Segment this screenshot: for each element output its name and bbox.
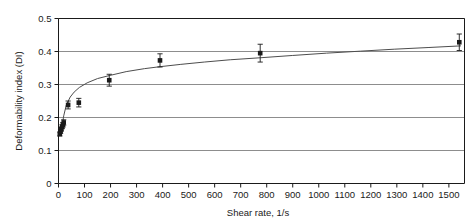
x-tick-label: 100 bbox=[77, 189, 93, 200]
x-axis-label: Shear rate, 1/s bbox=[227, 207, 290, 218]
x-tick-label: 400 bbox=[155, 189, 171, 200]
x-tick-label: 1300 bbox=[386, 189, 407, 200]
y-tick-label: 0.2 bbox=[38, 112, 51, 123]
y-tick-label: 0.4 bbox=[38, 46, 51, 57]
x-tick-label: 0 bbox=[56, 189, 61, 200]
x-tick-label: 1200 bbox=[360, 189, 381, 200]
deformability-vs-shear-rate-chart: 00.10.20.30.40.5 01002003004005006007008… bbox=[0, 0, 475, 222]
x-tick-label: 1000 bbox=[308, 189, 329, 200]
data-point-marker bbox=[258, 51, 263, 56]
x-tick-label: 800 bbox=[259, 189, 275, 200]
x-tick-label: 1100 bbox=[335, 189, 355, 200]
x-tick-label: 1400 bbox=[412, 189, 433, 200]
x-tick-label: 200 bbox=[103, 189, 119, 200]
x-tick-label: 900 bbox=[285, 189, 301, 200]
x-tick-label: 500 bbox=[181, 189, 197, 200]
data-point-marker bbox=[158, 58, 163, 63]
x-tick-label: 700 bbox=[233, 189, 249, 200]
y-tick-label: 0.3 bbox=[38, 79, 51, 90]
x-tick-label: 1500 bbox=[438, 189, 459, 200]
chart-figure: 00.10.20.30.40.5 01002003004005006007008… bbox=[0, 0, 475, 222]
data-point-marker bbox=[61, 120, 66, 125]
y-axis-label: Deformability index (DI) bbox=[13, 51, 24, 150]
data-point-marker bbox=[457, 40, 462, 45]
y-tick-label: 0.5 bbox=[38, 13, 51, 24]
data-point-marker bbox=[107, 78, 112, 83]
x-tick-label: 600 bbox=[207, 189, 223, 200]
x-tick-label: 300 bbox=[129, 189, 145, 200]
data-point-marker bbox=[66, 103, 71, 108]
y-tick-label: 0 bbox=[46, 178, 51, 189]
data-point-marker bbox=[77, 100, 82, 105]
y-tick-label: 0.1 bbox=[38, 145, 51, 156]
